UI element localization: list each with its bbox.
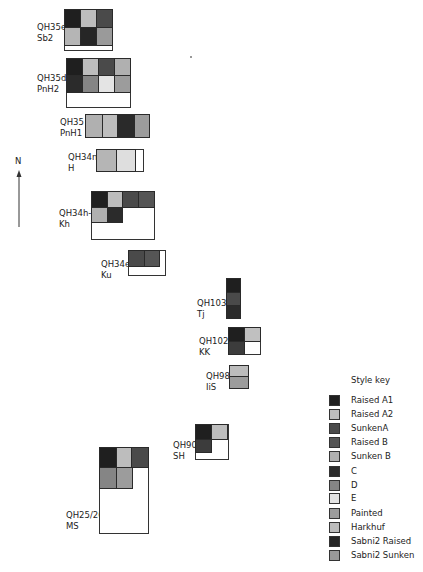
style-cell-d xyxy=(99,467,117,489)
tomb-owner: KK xyxy=(199,347,210,358)
legend-swatch-sabni2-raised xyxy=(329,536,340,547)
style-cell-c xyxy=(226,305,241,319)
style-cell-raised-a2 xyxy=(211,424,228,440)
tomb-owner: Ku xyxy=(101,270,112,281)
style-cell-raised-a1 xyxy=(99,447,117,468)
style-cell-raised-b xyxy=(138,191,155,208)
tomb-id: QH35 xyxy=(60,117,84,128)
tomb-owner: PnH1 xyxy=(60,128,82,139)
legend-swatch-sabni2-sunken xyxy=(329,550,340,561)
style-cell-c xyxy=(66,75,83,93)
style-cell-raised-a1 xyxy=(226,278,241,293)
legend-label: Raised B xyxy=(351,437,388,448)
tomb-owner: Tj xyxy=(197,309,205,320)
tomb-owner: H xyxy=(68,163,74,174)
legend-label: Harkhuf xyxy=(351,522,385,533)
legend-label: E xyxy=(351,493,356,504)
tomb-id: QH25/26 xyxy=(66,510,104,521)
legend-swatch-raised-a2 xyxy=(329,409,340,420)
stray-mark xyxy=(190,56,192,58)
style-cell-raised-a1 xyxy=(228,327,245,342)
tomb-id: QH98 xyxy=(206,371,230,382)
style-cell-painted xyxy=(114,75,131,93)
tomb-id: QH34h-i xyxy=(59,208,94,219)
tomb-id: QH34n xyxy=(68,152,97,163)
style-cell-e xyxy=(116,149,136,172)
style-cell-sabni2-raised xyxy=(80,27,97,46)
legend-swatch-c xyxy=(329,466,340,477)
style-cell-raised-a2 xyxy=(107,191,123,208)
style-cell-raised-a1 xyxy=(117,114,135,138)
style-cell-raised-b xyxy=(144,250,160,267)
legend-swatch-sunken-a xyxy=(329,423,340,434)
legend-label: Raised A1 xyxy=(351,395,393,406)
style-cell-harkhuf xyxy=(96,149,117,172)
style-cell-d xyxy=(82,75,99,93)
legend-swatch-d xyxy=(329,480,340,491)
style-cell-sunken-a xyxy=(226,292,241,306)
style-cell-painted xyxy=(96,27,113,46)
legend-swatch-raised-a1 xyxy=(329,395,340,406)
style-cell-raised-a2 xyxy=(116,447,132,468)
legend-label: Sabni2 Raised xyxy=(351,536,411,547)
style-cell-raised-a2 xyxy=(82,58,99,76)
tomb-owner: Sb2 xyxy=(37,33,53,44)
style-cell-raised-a2 xyxy=(80,9,97,28)
style-cell-sunken-a xyxy=(96,9,113,28)
style-cell-sabni2-sunken xyxy=(64,27,81,46)
tomb-id: QH35e xyxy=(37,22,66,33)
style-cell-painted xyxy=(229,376,249,389)
style-cell-raised-a2 xyxy=(244,327,261,342)
tomb-id: QH90 xyxy=(173,440,197,451)
legend-label: Painted xyxy=(351,508,383,519)
legend-swatch-raised-b xyxy=(329,437,340,448)
tomb-owner: PnH2 xyxy=(37,84,59,95)
legend-label: D xyxy=(351,480,358,491)
north-arrow-icon xyxy=(14,170,24,228)
legend-label: Raised A2 xyxy=(351,409,393,420)
style-cell-raised-a1 xyxy=(195,424,212,440)
style-cell-sunken-a xyxy=(122,191,139,208)
tomb-owner: MS xyxy=(66,521,79,532)
north-label: N xyxy=(15,156,21,167)
style-cell-painted xyxy=(134,114,150,138)
style-cell-sunken-b xyxy=(91,207,108,223)
style-cell-raised-a1 xyxy=(91,191,108,208)
style-cell-sunken-b xyxy=(85,114,103,138)
legend-label: SunkenA xyxy=(351,423,388,434)
legend-swatch-sunken-b xyxy=(329,451,340,462)
style-cell-raised-a1 xyxy=(64,9,81,28)
tomb-owner: Kh xyxy=(59,219,70,230)
legend-label: C xyxy=(351,466,357,477)
style-cell-raised-a1 xyxy=(66,58,83,76)
style-cell-sunken-a xyxy=(131,447,149,468)
legend-swatch-harkhuf xyxy=(329,522,340,533)
style-cell-painted xyxy=(116,467,133,489)
tomb-id: QH102 xyxy=(199,336,228,347)
style-cell-sunken-b xyxy=(114,58,131,76)
tomb-id: QH35d xyxy=(37,73,66,84)
tomb-id: QH103 xyxy=(197,298,226,309)
tomb-owner: IiS xyxy=(206,382,216,393)
legend-title: Style key xyxy=(351,375,390,386)
tomb-owner: SH xyxy=(173,451,185,462)
legend-swatch-painted xyxy=(329,508,340,519)
legend-swatch-e xyxy=(329,493,340,504)
style-cell-sunken-a xyxy=(98,58,115,76)
style-cell-e xyxy=(98,75,115,93)
legend-label: Sunken B xyxy=(351,451,391,462)
legend-label: Sabni2 Sunken xyxy=(351,550,414,561)
style-cell-c xyxy=(107,207,123,223)
tomb-id: QH34e xyxy=(101,259,130,270)
style-cell-sunken-a xyxy=(228,341,245,355)
style-cell-sunken-a xyxy=(128,250,145,267)
style-cell-raised-a2 xyxy=(102,114,118,138)
style-cell-sunken-a xyxy=(195,439,212,453)
